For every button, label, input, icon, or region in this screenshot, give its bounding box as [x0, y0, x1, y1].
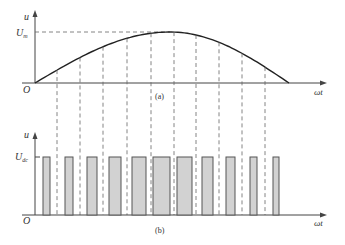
panel-a: u Um O ωt (a) [16, 10, 327, 101]
pwm-pulse [109, 157, 121, 215]
pwm-pulse [250, 157, 257, 215]
panel-b-x-arrow-icon [320, 213, 327, 218]
panel-a-caption: (a) [155, 92, 164, 101]
pwm-pulse [43, 157, 50, 215]
panel-b-level-label: Udc [15, 151, 28, 163]
sine-half-wave-curve [35, 32, 289, 83]
panel-b-origin-label: O [23, 215, 30, 226]
panel-a-x-arrow-icon [320, 81, 327, 86]
panel-a-x-label: ωt [314, 87, 323, 97]
panel-a-level-label: Um [16, 27, 28, 39]
pwm-pulse-train [43, 157, 279, 215]
pwm-pulse [273, 157, 279, 215]
pwm-pulse [177, 157, 192, 215]
panel-b-y-label: u [24, 129, 29, 140]
pwm-pulse [65, 157, 73, 215]
pwm-pulse [132, 157, 146, 215]
panel-a-y-arrow-icon [33, 10, 38, 17]
pwm-sine-diagram: u Um O ωt (a) u Udc O ωt (b) [0, 0, 345, 245]
panel-b-caption: (b) [155, 226, 165, 235]
pwm-pulse [153, 157, 170, 215]
pwm-pulse [87, 157, 97, 215]
panel-b-y-arrow-icon [33, 132, 38, 139]
panel-a-y-label: u [24, 11, 29, 22]
pwm-pulse [226, 157, 235, 215]
pwm-pulse [202, 157, 213, 215]
panel-b-x-label: ωt [314, 218, 323, 228]
panel-a-origin-label: O [23, 84, 30, 95]
panel-b: u Udc O ωt (b) [15, 129, 327, 235]
